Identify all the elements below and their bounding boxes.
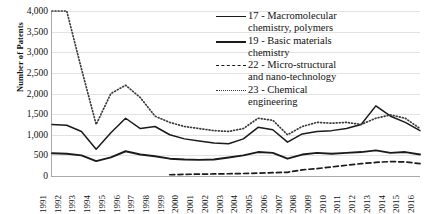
x-tick-label: 2013: [363, 195, 372, 213]
legend-label-continuation: and nano-technology: [248, 71, 421, 83]
x-tick-label: 1995: [98, 195, 107, 213]
legend-item[interactable]: 19 - Basic materials: [216, 35, 421, 47]
x-tick-label: 2007: [275, 195, 284, 213]
y-tick-label: 2,000: [27, 89, 48, 98]
y-tick-label: 1,000: [27, 130, 48, 139]
x-axis-tick-labels: 1991199219931994199519961997199819992000…: [51, 177, 419, 214]
patent-trend-line-chart: Number of Patents 4,0003,5003,0002,5002,…: [0, 0, 424, 214]
y-tick-label: 3,000: [27, 48, 48, 57]
series-line: [170, 162, 420, 175]
x-tick-label: 2001: [186, 195, 195, 213]
x-tick-label: 2014: [378, 195, 387, 213]
y-tick-label: 1,500: [27, 110, 48, 119]
x-tick-label: 2009: [304, 195, 313, 213]
x-tick-label: 1998: [142, 195, 151, 213]
series-line: [52, 106, 420, 149]
x-tick-label: 1997: [127, 195, 136, 213]
y-tick-label: 0: [43, 172, 48, 181]
x-tick-label: 2004: [230, 195, 239, 213]
legend-label: 17 - Macromolecular: [248, 10, 421, 22]
x-tick-label: 1993: [68, 195, 77, 213]
x-tick-label: 1996: [113, 195, 122, 213]
x-tick-label: 2010: [319, 195, 328, 213]
legend-item[interactable]: 23 - Chemical: [216, 84, 421, 96]
y-tick-label: 500: [34, 151, 48, 160]
x-tick-label: 2005: [245, 195, 254, 213]
y-tick-label: 4,000: [27, 7, 48, 16]
legend-line-swatch-icon: [216, 10, 246, 22]
legend-label-continuation: chemistry: [248, 47, 421, 59]
legend-label: 23 - Chemical: [248, 84, 421, 96]
legend-line-swatch-icon: [216, 59, 246, 71]
x-tick-label: 2002: [201, 195, 210, 213]
legend-label: 22 - Micro-structural: [248, 59, 421, 71]
x-tick-label: 1994: [83, 195, 92, 213]
legend-label: 19 - Basic materials: [248, 35, 421, 47]
x-tick-label: 1999: [157, 195, 166, 213]
legend-line-swatch-icon: [216, 35, 246, 47]
series-line: [52, 150, 420, 161]
x-tick-label: 2000: [171, 195, 180, 213]
legend-line-swatch-icon: [216, 84, 246, 96]
x-tick-label: 1991: [39, 195, 48, 213]
legend-label-continuation: chemistry, polymers: [248, 22, 421, 34]
x-tick-label: 2011: [333, 195, 342, 213]
x-tick-label: 1992: [54, 195, 63, 213]
y-tick-label: 2,500: [27, 68, 48, 77]
legend-item[interactable]: 17 - Macromolecular: [216, 10, 421, 22]
legend-item[interactable]: 22 - Micro-structural: [216, 59, 421, 71]
x-tick-label: 2012: [348, 195, 357, 213]
legend-label-continuation: engineering: [248, 96, 421, 108]
x-tick-label: 2006: [260, 195, 269, 213]
x-tick-label: 2003: [216, 195, 225, 213]
x-tick-label: 2008: [289, 195, 298, 213]
x-tick-label: 2015: [392, 195, 401, 213]
y-axis-tick-labels: 4,0003,5003,0002,5002,0001,5001,0005000: [14, 0, 48, 214]
chart-legend: 17 - Macromolecularchemistry, polymers19…: [216, 10, 421, 108]
x-tick-label: 2016: [407, 195, 416, 213]
y-tick-label: 3,500: [27, 27, 48, 36]
